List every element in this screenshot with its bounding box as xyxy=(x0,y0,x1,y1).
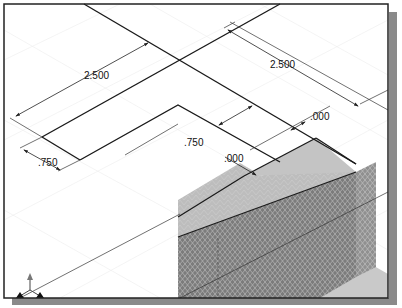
frame-shadow-right xyxy=(389,12,397,304)
block-right-face xyxy=(356,162,376,277)
dim-top-left-length-label[interactable]: 2.500 xyxy=(84,70,109,81)
cad-viewport[interactable]: 2.500 2.500 .750 .750 .000 .000 xyxy=(0,0,402,308)
dim-center-width-label[interactable]: .750 xyxy=(184,137,204,148)
dim-center-offset-label[interactable]: .000 xyxy=(224,153,244,164)
frame-shadow-bottom xyxy=(12,298,397,305)
dim-top-right-length-label[interactable]: 2.500 xyxy=(270,59,295,70)
dim-left-width-label[interactable]: .750 xyxy=(38,157,58,168)
dim-right-offset-label[interactable]: .000 xyxy=(310,111,330,122)
